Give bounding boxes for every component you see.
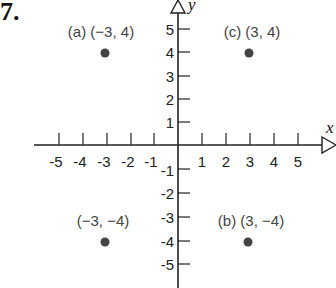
- y-tick-label: 3: [166, 68, 174, 85]
- y-tick-label: 1: [166, 114, 174, 131]
- point-marker: [244, 238, 253, 247]
- y-tick-label: -4: [161, 233, 174, 250]
- point-label: (c) (3, 4): [224, 23, 281, 40]
- x-tick-labels: -5 -4 -3 -2 -1 1 2 3 4 5: [49, 153, 302, 170]
- point-b: (b) (3, −4): [218, 212, 284, 247]
- point-d: (−3, −4): [77, 212, 130, 247]
- x-axis-arrow-icon: [322, 137, 336, 153]
- x-tick-label: -5: [49, 153, 62, 170]
- point-a: (a) (−3, 4): [68, 23, 134, 58]
- y-tick-label: 4: [166, 44, 174, 61]
- x-tick-label: 3: [246, 153, 254, 170]
- y-ticks: [178, 29, 190, 264]
- point-c: (c) (3, 4): [224, 23, 281, 58]
- y-axis-label: y: [186, 0, 196, 14]
- point-marker: [101, 238, 110, 247]
- x-tick-label: -3: [97, 153, 110, 170]
- point-label: (b) (3, −4): [218, 212, 284, 229]
- x-tick-label: 5: [294, 153, 302, 170]
- x-tick-label: 1: [198, 153, 206, 170]
- y-tick-label: -2: [161, 185, 174, 202]
- y-tick-labels: 5 4 3 2 1 -1 -2 -3 -4 -5: [161, 21, 174, 273]
- point-marker: [101, 49, 110, 58]
- problem-number: 7.: [0, 0, 20, 26]
- x-tick-label: -2: [121, 153, 134, 170]
- y-tick-label: 2: [166, 91, 174, 108]
- y-tick-label: -1: [161, 162, 174, 179]
- x-axis-label: x: [325, 118, 334, 137]
- coordinate-plane: 7. x y -5 -4 -3 -2 -1 1 2 3 4 5: [0, 0, 336, 288]
- x-tick-label: 4: [270, 153, 278, 170]
- point-marker: [245, 49, 254, 58]
- point-label: (a) (−3, 4): [68, 23, 134, 40]
- y-tick-label: -5: [161, 256, 174, 273]
- x-tick-label: -1: [144, 153, 157, 170]
- y-tick-label: 5: [166, 21, 174, 38]
- y-tick-label: -3: [161, 209, 174, 226]
- point-label: (−3, −4): [77, 212, 130, 229]
- x-tick-label: -4: [73, 153, 86, 170]
- x-tick-label: 2: [222, 153, 230, 170]
- y-axis-arrow-icon: [171, 0, 185, 13]
